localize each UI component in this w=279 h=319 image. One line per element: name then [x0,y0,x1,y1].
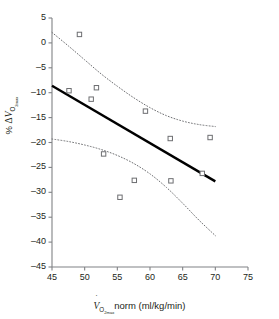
x-axis-title: V˙O2maxnorm (ml/kg/min) [0,300,279,315]
data-point-marker [94,86,98,90]
x-tick-label: 55 [105,273,129,282]
data-point-marker [77,32,81,36]
y-axis-vdot-symbol: V˙ [4,112,14,118]
data-point-marker [132,178,136,182]
scatter-plot-canvas [0,0,279,319]
x-axis-subscript: O2max [99,306,114,313]
x-tick-label: 60 [138,273,162,282]
y-tick-label: –40 [14,237,46,246]
data-point-marker [118,195,122,199]
y-tick-label: 0 [14,38,46,47]
x-tick-label: 70 [203,273,227,282]
y-tick-label: –10 [14,88,46,97]
y-axis-title: % ΔV˙O2max [3,71,18,161]
y-tick-label: –15 [14,113,46,122]
y-axis-delta-symbol: Δ [4,117,14,123]
axis-ticks [49,18,249,271]
y-tick-label: –35 [14,212,46,221]
data-point-marker [67,89,71,93]
data-point-marker [168,136,172,140]
data-point-marker [143,109,147,113]
data-point-markers [67,32,213,199]
y-axis-percent-symbol: % [3,126,14,134]
y-tick-label: –30 [14,187,46,196]
y-tick-label: 5 [14,13,46,22]
data-point-marker [200,171,204,175]
data-point-marker [89,97,93,101]
data-point-marker [101,152,105,156]
regression-line [52,86,215,182]
x-axis-vdot-symbol: V˙ [93,301,99,311]
x-axis-units-text: norm (ml/kg/min) [114,300,185,311]
y-tick-label: –25 [14,162,46,171]
data-point-marker [169,179,173,183]
y-tick-label: –5 [14,63,46,72]
y-tick-label: –20 [14,138,46,147]
y-tick-label: –45 [14,262,46,271]
x-tick-label: 50 [73,273,97,282]
data-point-marker [208,135,212,139]
x-tick-label: 45 [40,273,64,282]
chart-figure: 50–5–10–15–20–25–30–35–40–45455055606570… [0,0,279,319]
x-tick-label: 75 [236,273,260,282]
y-axis-subscript: O2max [9,97,16,112]
x-tick-label: 65 [171,273,195,282]
